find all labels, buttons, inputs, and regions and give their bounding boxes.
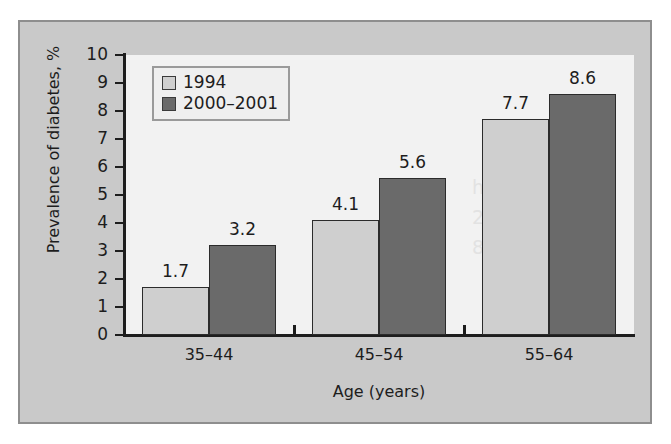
y-axis-tick — [115, 250, 124, 252]
bar-1994-55–64[interactable] — [482, 119, 549, 335]
y-axis-tick-labels: 012345678910 — [76, 22, 108, 362]
y-axis-tick — [115, 222, 124, 224]
y-axis-tick-label: 2 — [82, 270, 108, 287]
bar-2000–2001-55–64[interactable] — [549, 94, 616, 335]
x-axis-title: Age (years) — [124, 382, 634, 401]
bar-2000–2001-35–44[interactable] — [209, 245, 276, 335]
y-axis-tick-label: 1 — [82, 298, 108, 315]
legend-swatch-icon — [162, 76, 176, 90]
legend-item-label: 2000–2001 — [183, 95, 278, 112]
legend-item[interactable]: 2000–2001 — [162, 93, 278, 114]
y-axis-title: Prevalence of diabetes, % — [44, 45, 63, 255]
y-axis-tick-label: 5 — [82, 186, 108, 203]
y-axis-tick — [115, 166, 124, 168]
y-axis-tick-label: 8 — [82, 102, 108, 119]
bar-value-label: 4.1 — [312, 194, 379, 214]
bar-1994-45–54[interactable] — [312, 220, 379, 335]
y-axis-tick — [115, 82, 124, 84]
bar-value-label: 3.2 — [209, 219, 276, 239]
y-axis-tick-label: 9 — [82, 74, 108, 91]
figure-frame: h 2 8 012345678910 1.74.17.73.25.68.6 35… — [18, 20, 652, 424]
y-axis-tick-label: 3 — [82, 242, 108, 259]
bar-1994-35–44[interactable] — [142, 287, 209, 335]
y-axis-tick-label: 6 — [82, 158, 108, 175]
y-axis-tick — [115, 138, 124, 140]
x-axis-category-label: 35–44 — [124, 345, 294, 364]
y-axis-tick — [115, 194, 124, 196]
x-axis-category-label: 55–64 — [464, 345, 634, 364]
y-axis-tick — [115, 54, 124, 56]
y-axis-tick-label: 0 — [82, 326, 108, 343]
y-axis-tick — [115, 110, 124, 112]
bar-value-label: 8.6 — [549, 68, 616, 88]
y-axis-tick — [115, 278, 124, 280]
y-axis-tick-label: 10 — [82, 46, 108, 63]
bar-value-label: 5.6 — [379, 152, 446, 172]
y-axis-tick-label: 4 — [82, 214, 108, 231]
y-axis-tick — [115, 334, 124, 336]
y-axis-tick — [115, 306, 124, 308]
legend-item[interactable]: 1994 — [162, 72, 278, 93]
x-axis-category-label: 45–54 — [294, 345, 464, 364]
y-axis-tick-label: 7 — [82, 130, 108, 147]
legend-swatch-icon — [162, 97, 176, 111]
figure-page: h 2 8 012345678910 1.74.17.73.25.68.6 35… — [0, 0, 671, 444]
legend-item-label: 1994 — [183, 74, 226, 91]
chart-legend: 19942000–2001 — [152, 66, 290, 121]
bar-2000–2001-45–54[interactable] — [379, 178, 446, 335]
bar-value-label: 1.7 — [142, 261, 209, 281]
bar-value-label: 7.7 — [482, 93, 549, 113]
